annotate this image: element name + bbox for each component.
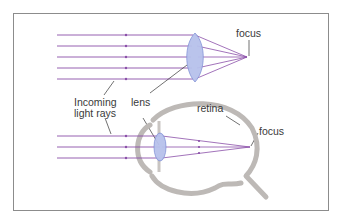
- retina-label: retina: [197, 102, 223, 114]
- convex-lens-icon: [187, 33, 204, 82]
- lens-label: lens: [131, 96, 150, 108]
- focus-label-top: focus: [236, 27, 261, 39]
- eye-refracted-rays: [162, 136, 250, 158]
- leader-lines: [104, 40, 258, 146]
- top-ray-arrow-markers: [125, 34, 127, 80]
- focus-label-bottom: focus: [259, 125, 284, 137]
- eye-incoming-rays: [57, 136, 160, 158]
- optics-diagram: [0, 0, 341, 223]
- incoming-label-line2: light rays: [74, 107, 116, 119]
- eye-lens-icon: [154, 133, 166, 161]
